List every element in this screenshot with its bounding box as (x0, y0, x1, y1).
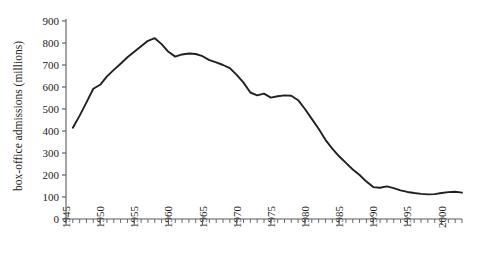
line-chart: box-office admissions (millions) 0100200… (0, 0, 479, 271)
y-tick-label: 200 (43, 169, 60, 181)
y-tick-labels: 0100200300400500600700800900 (43, 15, 60, 225)
y-tick-label: 900 (43, 15, 60, 27)
y-tick-label: 600 (43, 81, 60, 93)
y-tick-label: 100 (43, 191, 60, 203)
x-major-tick-marks (66, 219, 442, 225)
y-axis-title: box-office admissions (millions) (12, 41, 25, 191)
x-tick-labels: 1945195019551960196519701975198019851990… (60, 206, 448, 229)
y-tick-label: 400 (43, 125, 60, 137)
y-tick-label: 300 (43, 147, 60, 159)
y-tick-marks (62, 21, 66, 219)
chart-figure: box-office admissions (millions) 0100200… (0, 0, 479, 271)
y-tick-label: 0 (54, 213, 60, 225)
y-axis-title-group: box-office admissions (millions) (12, 41, 25, 191)
axes (66, 19, 462, 219)
data-line-series (73, 38, 462, 194)
y-tick-label: 500 (43, 103, 60, 115)
y-tick-label: 800 (43, 37, 60, 49)
y-tick-label: 700 (43, 59, 60, 71)
